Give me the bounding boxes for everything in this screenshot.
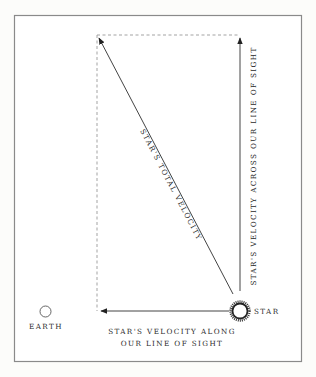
earth-icon xyxy=(40,306,51,317)
along-velocity-label-line1: STAR'S VELOCITY ALONG xyxy=(108,327,236,336)
velocity-diagram: EARTH STAR STAR'S VELOCITY ALONG OUR LIN… xyxy=(0,0,316,377)
earth-label: EARTH xyxy=(29,322,63,331)
across-velocity-label: STAR'S VELOCITY ACROSS OUR LINE OF SIGHT xyxy=(249,46,258,285)
star-label: STAR xyxy=(254,307,280,316)
along-velocity-label-line2: OUR LINE OF SIGHT xyxy=(121,339,224,348)
